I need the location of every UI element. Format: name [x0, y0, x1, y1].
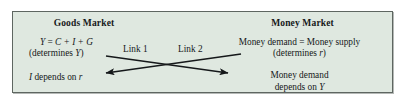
- link-1-label: Link 1: [123, 44, 148, 54]
- link-arrows: [13, 12, 394, 94]
- link-2-arrow: [106, 54, 241, 73]
- link-2-label: Link 2: [178, 44, 203, 54]
- figure-container: Goods Market Y = C + I + G (determines Y…: [12, 11, 393, 93]
